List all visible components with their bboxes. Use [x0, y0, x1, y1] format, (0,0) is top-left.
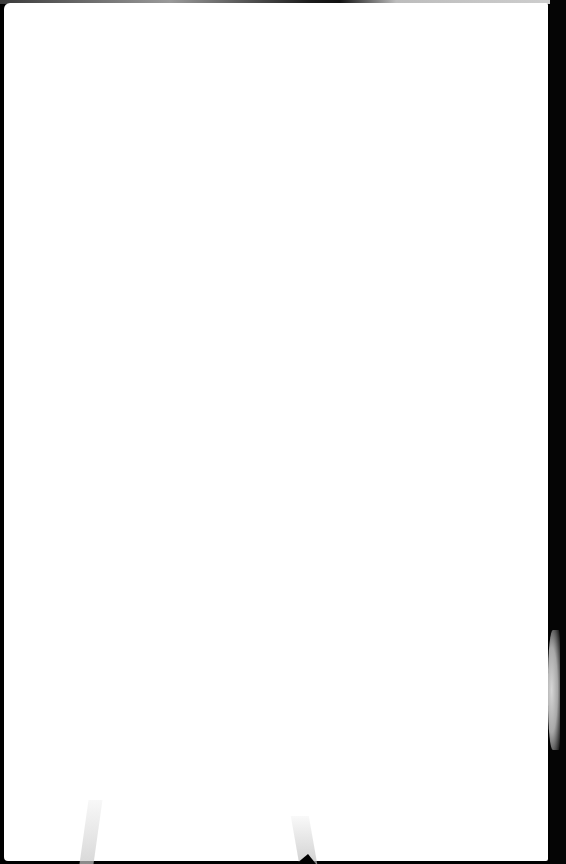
- paper-edge-smudge: [548, 630, 560, 750]
- scanned-page: [0, 0, 566, 864]
- blank-paper-sheet: [4, 3, 548, 861]
